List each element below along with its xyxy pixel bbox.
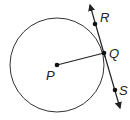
point-s: [113, 88, 118, 93]
circle-tangent-diagram: P Q R S: [0, 0, 130, 120]
point-r: [93, 22, 98, 27]
label-r: R: [100, 10, 109, 25]
radius-pq: [57, 53, 104, 65]
point-q: [102, 51, 107, 56]
point-p: [55, 63, 60, 68]
label-s: S: [119, 83, 128, 98]
label-p: P: [46, 68, 55, 83]
tangent-line-rs-lower: [104, 53, 120, 108]
label-q: Q: [109, 46, 119, 61]
